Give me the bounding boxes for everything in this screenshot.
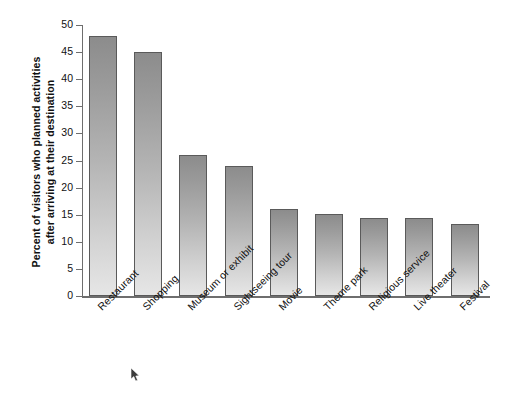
y-tick-mark bbox=[76, 215, 82, 216]
y-tick-mark bbox=[76, 188, 82, 189]
bar bbox=[89, 36, 117, 296]
y-tick-label: 20 bbox=[51, 181, 73, 193]
y-tick-label: 30 bbox=[51, 126, 73, 138]
y-tick-label: 50 bbox=[51, 18, 73, 30]
y-tick-mark bbox=[76, 133, 82, 134]
y-tick-label: 10 bbox=[51, 235, 73, 247]
y-tick-label: 5 bbox=[51, 262, 73, 274]
y-tick-mark bbox=[76, 296, 82, 297]
y-tick-mark bbox=[76, 106, 82, 107]
y-tick-mark bbox=[76, 242, 82, 243]
y-tick-mark bbox=[76, 79, 82, 80]
y-tick-label: 25 bbox=[51, 154, 73, 166]
y-axis-title-line-1: Percent of visitors who planned activiti… bbox=[29, 17, 43, 307]
y-tick-label: 15 bbox=[51, 208, 73, 220]
y-tick-label: 40 bbox=[51, 72, 73, 84]
y-tick-label: 0 bbox=[51, 289, 73, 301]
bar-chart: Percent of visitors who planned activiti… bbox=[0, 0, 522, 408]
y-tick-mark bbox=[76, 25, 82, 26]
bar bbox=[179, 155, 207, 296]
y-tick-mark bbox=[76, 52, 82, 53]
bar bbox=[134, 52, 162, 296]
y-tick-mark bbox=[76, 269, 82, 270]
bar bbox=[315, 214, 343, 296]
mouse-pointer-icon bbox=[131, 368, 142, 382]
y-tick-label: 45 bbox=[51, 45, 73, 57]
y-tick-label: 35 bbox=[51, 99, 73, 111]
y-axis-line bbox=[82, 25, 83, 297]
y-tick-mark bbox=[76, 161, 82, 162]
